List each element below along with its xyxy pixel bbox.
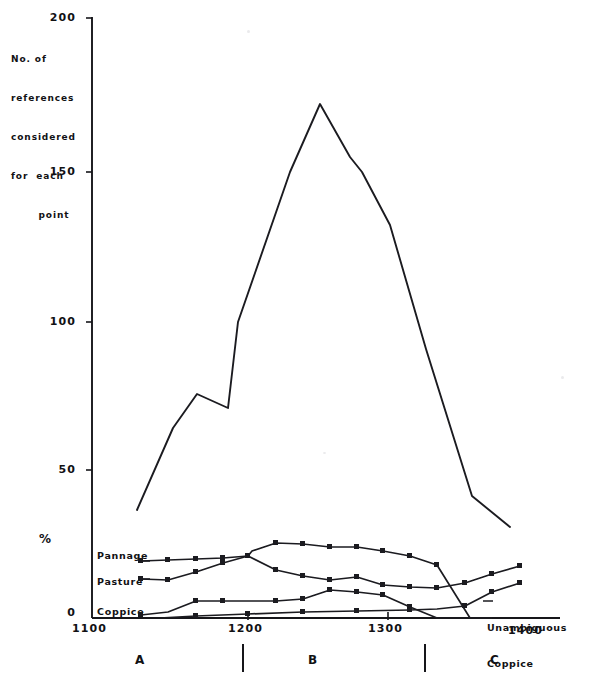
- figure-canvas: No. of references considered for each po…: [0, 0, 594, 689]
- series-markers-pasture: [138, 560, 522, 590]
- series-markers-unambiguous-coppice: [193, 580, 522, 618]
- chart-plot-area: [0, 0, 594, 689]
- period-separators: [243, 644, 425, 672]
- series-line-reference-count: [137, 104, 510, 527]
- series-line-pannage: [141, 543, 470, 618]
